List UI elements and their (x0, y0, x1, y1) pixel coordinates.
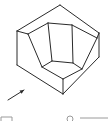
option-circle-partial (67, 116, 73, 121)
edge-line (48, 23, 72, 25)
edge-line (28, 23, 48, 34)
edge-line (17, 31, 28, 34)
edge-line (72, 25, 73, 63)
view-direction-arrow-icon (8, 90, 24, 100)
edge-line (72, 25, 97, 38)
edge-line (42, 67, 63, 79)
isometric-drawing (0, 0, 110, 121)
edge-line (73, 63, 82, 69)
drawing-edges (17, 5, 99, 94)
edge-line (52, 61, 73, 63)
option-box-partial (1, 117, 12, 121)
edge-line (82, 38, 97, 69)
bottom-partial-elements (1, 116, 108, 121)
edge-line (17, 5, 60, 31)
edge-line (28, 34, 42, 67)
edge-line (42, 61, 52, 67)
edge-line (48, 23, 52, 61)
